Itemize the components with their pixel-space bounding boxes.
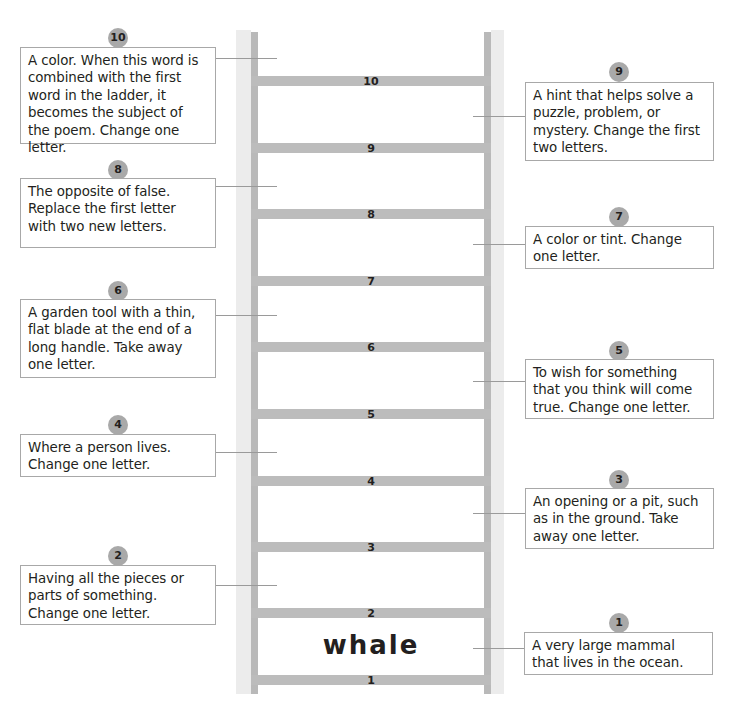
clue-text: A color or tint. Change one letter. xyxy=(533,232,682,264)
clue-text: To wish for something that you think wil… xyxy=(533,365,692,415)
clue-box-1: A very large mammal that lives in the oc… xyxy=(524,632,713,675)
clue-box-5: To wish for something that you think wil… xyxy=(525,359,714,419)
clue-text: An opening or a pit, such as in the grou… xyxy=(533,494,699,544)
rung-6: 6 xyxy=(251,342,491,352)
clue-number-badge-3: 3 xyxy=(609,470,629,490)
connector-1 xyxy=(473,648,525,649)
rung-number: 1 xyxy=(367,674,375,687)
clue-number-badge-1: 1 xyxy=(609,613,629,633)
clue-number-badge-9: 9 xyxy=(609,62,629,82)
rung-number: 7 xyxy=(367,275,375,288)
clue-box-7: A color or tint. Change one letter. xyxy=(525,226,714,269)
ladder-left-rail-face xyxy=(236,30,251,694)
clue-text: A garden tool with a thin, flat blade at… xyxy=(28,305,195,372)
rung-number: 2 xyxy=(367,607,375,620)
rung-8: 8 xyxy=(251,209,491,219)
rung-number: 10 xyxy=(363,75,378,88)
rung-number: 9 xyxy=(367,142,375,155)
connector-10 xyxy=(215,58,277,59)
rung-number: 6 xyxy=(367,341,375,354)
clue-box-10: A color. When this word is combined with… xyxy=(20,47,216,144)
clue-number-badge-6: 6 xyxy=(108,281,128,301)
rung-2: 2 xyxy=(251,608,491,618)
connector-7 xyxy=(473,244,525,245)
connector-9 xyxy=(473,116,525,117)
clue-number-badge-5: 5 xyxy=(609,341,629,361)
ladder-right-rail-face xyxy=(491,30,504,694)
rung-4: 4 xyxy=(251,476,491,486)
rung-10: 10 xyxy=(251,76,491,86)
rung-number: 3 xyxy=(367,541,375,554)
clue-number-badge-4: 4 xyxy=(108,415,128,435)
connector-8 xyxy=(215,186,277,187)
rung-3: 3 xyxy=(251,542,491,552)
clue-box-8: The opposite of false. Replace the first… xyxy=(20,178,216,248)
clue-number-badge-8: 8 xyxy=(108,160,128,180)
clue-box-9: A hint that helps solve a puzzle, proble… xyxy=(525,82,714,161)
ladder-right-rail-side xyxy=(484,32,491,694)
connector-2 xyxy=(215,585,277,586)
clue-text: Where a person lives. Change one letter. xyxy=(28,440,171,472)
connector-6 xyxy=(215,315,277,316)
rung-number: 4 xyxy=(367,475,375,488)
connector-3 xyxy=(473,513,525,514)
clue-text: Having all the pieces or parts of someth… xyxy=(28,571,184,621)
rung-number: 5 xyxy=(367,408,375,421)
rung-7: 7 xyxy=(251,276,491,286)
clue-box-3: An opening or a pit, such as in the grou… xyxy=(525,488,714,549)
start-word: whale xyxy=(255,630,487,660)
rung-5: 5 xyxy=(251,409,491,419)
connector-4 xyxy=(215,452,277,453)
rung-9: 9 xyxy=(251,143,491,153)
rung-number: 8 xyxy=(367,208,375,221)
clue-text: The opposite of false. Replace the first… xyxy=(28,184,176,234)
clue-text: A hint that helps solve a puzzle, proble… xyxy=(533,88,700,155)
rung-1: 1 xyxy=(251,675,491,685)
clue-box-6: A garden tool with a thin, flat blade at… xyxy=(20,299,216,378)
clue-text: A very large mammal that lives in the oc… xyxy=(532,638,683,670)
clue-box-2: Having all the pieces or parts of someth… xyxy=(20,565,216,625)
clue-box-4: Where a person lives. Change one letter. xyxy=(20,434,216,477)
clue-number-badge-2: 2 xyxy=(108,546,128,566)
ladder-left-rail-side xyxy=(251,32,258,694)
clue-number-badge-10: 10 xyxy=(108,28,128,48)
connector-5 xyxy=(473,381,525,382)
clue-number-badge-7: 7 xyxy=(609,207,629,227)
clue-text: A color. When this word is combined with… xyxy=(28,53,198,155)
